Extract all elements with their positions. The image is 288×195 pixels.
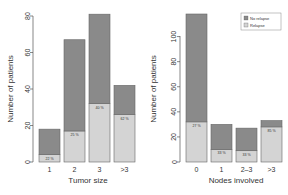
- bar-1: 22 %: [39, 129, 60, 162]
- bar-annotation: 25 %: [70, 133, 79, 137]
- x-tick-label: 1: [220, 166, 224, 173]
- y-tick-label: 60: [24, 49, 31, 57]
- bar-segment-no-relapse: [211, 124, 232, 149]
- x-tick-label: 0: [195, 166, 199, 173]
- bar-annotation: 85 %: [267, 129, 276, 133]
- bar-annotation: 62 %: [120, 117, 129, 121]
- bar-segment-no-relapse: [114, 85, 135, 114]
- bar-segment-no-relapse: [64, 40, 85, 131]
- y-tick-label: 60: [171, 83, 178, 91]
- x-tick-label: 3: [98, 166, 102, 173]
- bar-segment-no-relapse: [261, 121, 282, 127]
- legend: No relapse Relapse: [241, 13, 281, 30]
- chart-canvas: 020406080 Number of patients 22 %25 %40 …: [0, 0, 288, 195]
- bar-0: 27 %: [186, 14, 207, 162]
- y-tick-label: 80: [171, 58, 178, 66]
- x-tick-label: 2–3: [241, 166, 253, 173]
- x-tick-label: >3: [121, 166, 129, 173]
- x-tick-label: 1: [48, 166, 52, 173]
- bar-annotation: 33 %: [242, 153, 251, 157]
- bar-segment-no-relapse: [186, 14, 207, 122]
- y-tick-label: 40: [24, 85, 31, 93]
- x-tick-label: 2: [73, 166, 77, 173]
- bar-3: 40 %: [89, 14, 110, 162]
- y-tick-label: 0: [24, 160, 31, 164]
- bar-segment-no-relapse: [39, 129, 60, 155]
- y-axis-label: Number of patients: [6, 55, 15, 123]
- bar-1: 33 %: [211, 124, 232, 162]
- bar-segment-relapse: [114, 115, 135, 162]
- y-tick-label: 20: [171, 133, 178, 141]
- x-tick-label: >3: [268, 166, 276, 173]
- legend-label-relapse: Relapse: [250, 23, 265, 28]
- bar-annotation: 22 %: [45, 157, 54, 161]
- bar-segment-no-relapse: [89, 14, 110, 103]
- bar-2–3: 33 %: [236, 128, 257, 162]
- y-tick-label: 0: [171, 160, 178, 164]
- y-tick-label: 100: [171, 31, 178, 43]
- bar-segment-no-relapse: [236, 128, 257, 151]
- legend-swatch-no-relapse: [244, 16, 248, 20]
- x-axis-label: Tumor size: [68, 176, 108, 185]
- bar-annotation: 40 %: [95, 106, 104, 110]
- legend-label-no-relapse: No relapse: [250, 16, 270, 21]
- chart-nodes-involved: 020406080100 Number of patients 27 %33 %…: [149, 13, 282, 185]
- bar-segment-relapse: [186, 122, 207, 162]
- bar-segment-relapse: [89, 104, 110, 162]
- y-axis-label: Number of patients: [149, 55, 158, 123]
- bar-annotation: 27 %: [192, 124, 201, 128]
- legend-swatch-relapse: [244, 23, 248, 27]
- y-tick-label: 40: [171, 108, 178, 116]
- bar-2: 25 %: [64, 40, 85, 162]
- y-tick-label: 80: [24, 12, 31, 20]
- x-axis-label: Nodes involved: [209, 176, 264, 185]
- bar-annotation: 33 %: [217, 151, 226, 155]
- y-tick-label: 20: [24, 122, 31, 130]
- chart-tumor-size: 020406080 Number of patients 22 %25 %40 …: [6, 12, 135, 185]
- bar->3: 62 %: [114, 85, 135, 162]
- bar->3: 85 %: [261, 121, 282, 162]
